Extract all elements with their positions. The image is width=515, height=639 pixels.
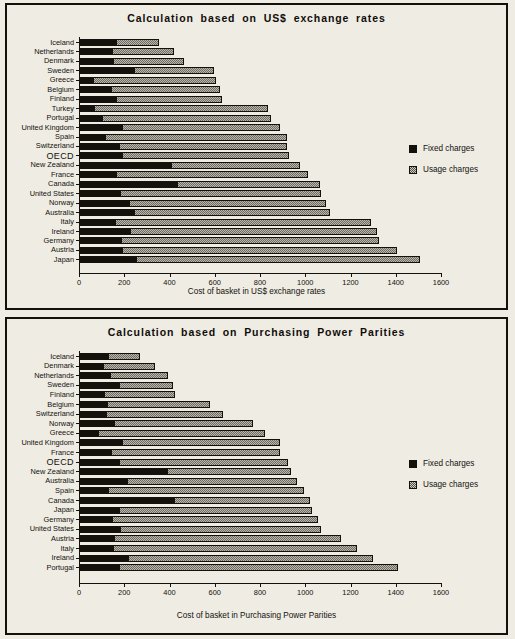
category-label: Australia: [0, 209, 74, 217]
stacked-bar: [79, 507, 312, 514]
bar-row: [79, 134, 441, 141]
category-label: Portugal: [0, 114, 74, 122]
bar-segment-fixed: [80, 450, 112, 455]
x-tick-mark: [124, 583, 125, 587]
category-label: OECD: [0, 152, 74, 160]
bar-segment-fixed: [80, 220, 116, 225]
bar-row: [79, 363, 441, 370]
bar-segment-usage: [112, 87, 220, 92]
bar-segment-usage: [129, 556, 372, 561]
bar-segment-usage: [135, 68, 212, 73]
stacked-bar: [79, 86, 220, 93]
x-axis-caption-ppp: Cost of basket in Purchasing Power Parit…: [7, 611, 506, 620]
bar-row: [79, 459, 441, 466]
bar-segment-fixed: [80, 517, 113, 522]
stacked-bar: [79, 115, 271, 122]
bar-segment-usage: [114, 59, 183, 64]
bar-rows-usd: IcelandNetherlandsDenmarkSwedenGreeceBel…: [79, 37, 441, 273]
bar-segment-fixed: [80, 392, 105, 397]
x-tick-mark: [79, 583, 80, 587]
category-label: Germany: [0, 237, 74, 245]
bar-row: [79, 487, 441, 494]
bar-row: [79, 391, 441, 398]
category-label: United Kingdom: [0, 124, 74, 132]
stacked-bar: [79, 545, 357, 552]
category-label: France: [0, 449, 74, 457]
bar-segment-fixed: [80, 565, 120, 570]
x-tick-label: 1600: [433, 278, 449, 287]
x-tick-mark: [170, 583, 171, 587]
bar-segment-fixed: [80, 460, 120, 465]
x-tick-mark: [351, 583, 352, 587]
stacked-bar: [79, 105, 268, 112]
x-tick-label: 1400: [388, 588, 404, 597]
bar-segment-usage: [108, 402, 209, 407]
x-tick-label: 1600: [433, 588, 449, 597]
bar-row: [79, 105, 441, 112]
figure-page: Calculation based on US$ exchange rates …: [0, 0, 515, 639]
legend-label-fixed: Fixed charges: [423, 459, 474, 468]
bar-segment-fixed: [80, 431, 99, 436]
category-label: France: [0, 171, 74, 179]
category-label: Norway: [0, 420, 74, 428]
x-tick-mark: [170, 273, 171, 277]
x-tick-label: 800: [254, 278, 266, 287]
category-label: Belgium: [0, 86, 74, 94]
bar-row: [79, 143, 441, 150]
bar-segment-fixed: [80, 402, 108, 407]
bar-row: [79, 200, 441, 207]
category-label: OECD: [0, 458, 74, 466]
bar-row: [79, 228, 441, 235]
category-label: Ireland: [0, 554, 74, 562]
bar-row: [79, 353, 441, 360]
category-label: Finland: [0, 95, 74, 103]
category-label: Japan: [0, 256, 74, 264]
plot-area-usd: IcelandNetherlandsDenmarkSwedenGreeceBel…: [79, 37, 441, 273]
stacked-bar: [79, 382, 173, 389]
x-tick-mark: [305, 583, 306, 587]
bar-segment-usage: [114, 546, 356, 551]
stacked-bar: [79, 459, 288, 466]
bar-segment-usage: [111, 373, 168, 378]
stacked-bar: [79, 353, 140, 360]
bar-segment-fixed: [80, 364, 104, 369]
category-label: Iceland: [0, 39, 74, 47]
chart-title-usd: Calculation based on US$ exchange rates: [7, 12, 506, 24]
bar-segment-fixed: [80, 440, 123, 445]
bar-segment-usage: [117, 97, 220, 102]
bar-segment-usage: [120, 144, 287, 149]
chart-title-ppp: Calculation based on Purchasing Power Pa…: [7, 326, 506, 338]
bar-segment-fixed: [80, 527, 121, 532]
bar-segment-usage: [109, 488, 303, 493]
bar-segment-fixed: [80, 257, 137, 262]
bar-row: [79, 439, 441, 446]
bar-segment-usage: [137, 257, 419, 262]
bar-row: [79, 478, 441, 485]
bar-segment-usage: [115, 536, 340, 541]
bar-segment-fixed: [80, 116, 103, 121]
bar-row: [79, 468, 441, 475]
bar-row: [79, 162, 441, 169]
bar-segment-usage: [99, 431, 263, 436]
bar-segment-usage: [120, 508, 311, 513]
category-label: Ireland: [0, 228, 74, 236]
bar-segment-fixed: [80, 536, 115, 541]
bar-row: [79, 555, 441, 562]
legend-swatch-fixed-icon: [409, 460, 417, 468]
legend-label-usage: Usage charges: [423, 480, 478, 489]
category-label: Italy: [0, 218, 74, 226]
bar-segment-usage: [104, 364, 154, 369]
x-tick-label: 600: [209, 278, 221, 287]
stacked-bar: [79, 478, 297, 485]
legend-item-usage-ppp: Usage charges: [409, 480, 478, 489]
x-tick-mark: [79, 273, 80, 277]
bar-segment-usage: [123, 125, 279, 130]
bar-segment-fixed: [80, 498, 175, 503]
stacked-bar: [79, 247, 397, 254]
bar-row: [79, 124, 441, 131]
stacked-bar: [79, 171, 308, 178]
category-label: Austria: [0, 246, 74, 254]
bar-row: [79, 67, 441, 74]
bar-row: [79, 507, 441, 514]
bar-row: [79, 48, 441, 55]
